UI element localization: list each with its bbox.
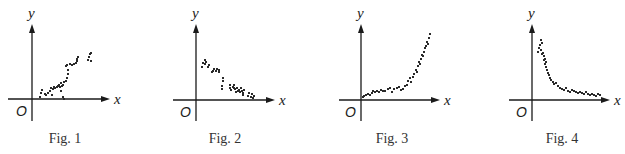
- data-point: [543, 55, 545, 57]
- data-point: [202, 62, 204, 64]
- data-point: [52, 88, 54, 90]
- data-point: [424, 47, 426, 49]
- data-point: [418, 61, 420, 63]
- data-point: [233, 84, 235, 86]
- data-point: [50, 87, 52, 89]
- data-point: [77, 56, 79, 58]
- data-point: [215, 70, 217, 72]
- data-point: [73, 63, 75, 65]
- data-point: [412, 76, 414, 78]
- y-axis-label: y: [26, 5, 35, 21]
- figure-3-caption: Fig. 3: [376, 131, 409, 147]
- data-point: [579, 91, 581, 93]
- figure-4: xyO: [509, 5, 621, 121]
- data-point: [240, 87, 242, 89]
- figure-2-caption: Fig. 2: [209, 131, 242, 147]
- data-point: [410, 81, 412, 83]
- data-point: [54, 87, 56, 89]
- data-point: [426, 41, 428, 43]
- data-point: [575, 91, 577, 93]
- data-point: [90, 52, 92, 54]
- data-point: [60, 90, 62, 92]
- data-point: [222, 77, 224, 79]
- data-point: [216, 68, 218, 70]
- data-point: [371, 92, 373, 94]
- figure-1-caption: Fig. 1: [49, 131, 82, 147]
- data-point: [235, 91, 237, 93]
- origin-label: O: [516, 104, 527, 120]
- data-point: [236, 87, 238, 89]
- data-point: [593, 94, 595, 96]
- data-point: [58, 84, 60, 86]
- data-point: [419, 63, 421, 65]
- origin-label: O: [180, 104, 191, 120]
- x-axis-arrow-icon: [101, 96, 110, 102]
- data-point: [420, 58, 422, 60]
- data-point: [242, 94, 244, 96]
- data-point: [241, 90, 243, 92]
- data-point: [63, 81, 65, 83]
- data-point: [571, 89, 573, 91]
- data-point: [539, 44, 541, 46]
- data-point: [76, 60, 78, 62]
- data-point: [63, 98, 65, 100]
- data-point: [407, 80, 409, 82]
- data-point: [88, 56, 90, 58]
- data-point: [239, 91, 241, 93]
- data-point: [65, 80, 67, 82]
- data-point: [559, 87, 561, 89]
- data-point: [69, 63, 71, 65]
- data-point: [47, 92, 49, 94]
- data-point: [253, 95, 255, 97]
- data-point: [221, 88, 223, 90]
- data-point: [396, 87, 398, 89]
- data-point: [565, 87, 567, 89]
- data-point: [60, 82, 62, 84]
- data-point: [423, 51, 425, 53]
- origin-label: O: [16, 103, 27, 119]
- data-point: [387, 88, 389, 90]
- data-point: [242, 92, 244, 94]
- data-point: [425, 45, 427, 47]
- data-point: [363, 95, 365, 97]
- data-point: [537, 51, 539, 53]
- data-point: [222, 80, 224, 82]
- data-point: [67, 69, 69, 71]
- data-point: [540, 39, 542, 41]
- y-axis-arrow-icon: [29, 24, 35, 33]
- data-point: [555, 82, 557, 84]
- data-point: [367, 93, 369, 95]
- data-point: [372, 90, 374, 92]
- data-point: [365, 94, 367, 96]
- data-point: [230, 89, 232, 91]
- y-axis-arrow-icon: [529, 24, 535, 33]
- data-point: [218, 69, 220, 71]
- data-point: [66, 64, 68, 66]
- data-point: [251, 93, 253, 95]
- data-point: [591, 93, 593, 95]
- x-axis-arrow-icon: [431, 97, 440, 103]
- data-point: [75, 62, 77, 64]
- data-point: [218, 71, 220, 73]
- data-point: [229, 87, 231, 89]
- data-point: [204, 59, 206, 61]
- data-point: [39, 96, 41, 98]
- figure-4-caption: Fig. 4: [546, 131, 579, 147]
- data-point: [417, 65, 419, 67]
- y-axis-label: y: [190, 5, 199, 21]
- data-point: [391, 91, 393, 93]
- data-point: [545, 61, 547, 63]
- figure-2: xyO: [173, 5, 286, 121]
- data-point: [90, 60, 92, 62]
- data-point: [369, 94, 371, 96]
- data-point: [374, 91, 376, 93]
- data-point: [406, 84, 408, 86]
- y-axis-label: y: [355, 5, 364, 21]
- x-axis-label: x: [443, 92, 451, 108]
- x-axis-arrow-icon: [601, 97, 610, 103]
- data-point: [569, 91, 571, 93]
- data-point: [409, 77, 411, 79]
- data-point: [561, 88, 563, 90]
- data-point: [380, 89, 382, 91]
- data-point: [552, 81, 554, 83]
